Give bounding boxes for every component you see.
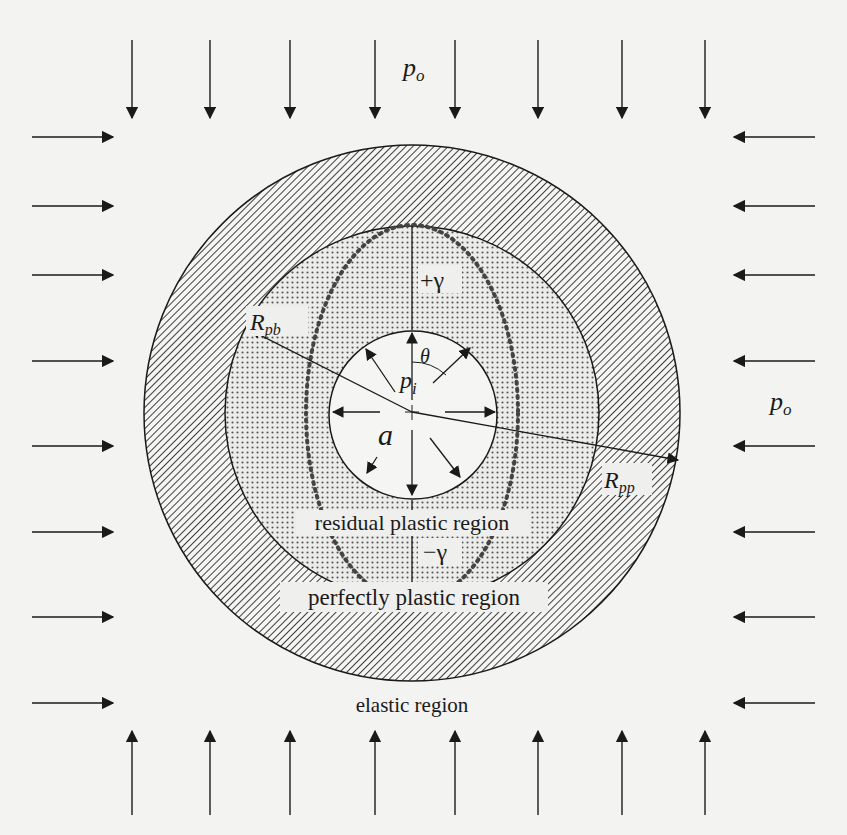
cavity-circle — [329, 331, 497, 499]
minus-gamma-label: −γ — [423, 539, 448, 565]
radius-a-label: a — [378, 418, 393, 451]
theta-label: θ — [420, 345, 430, 367]
residual-region-label: residual plastic region — [315, 510, 509, 535]
perfect-region-label: perfectly plastic region — [308, 585, 521, 610]
cavity-expansion-diagram: po po pi a θ +γ −γ Rpb Rpp residual plas… — [0, 0, 847, 835]
elastic-region-label: elastic region — [356, 693, 469, 717]
plus-gamma-label: +γ — [420, 267, 445, 293]
